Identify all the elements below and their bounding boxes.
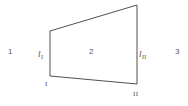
edge-subscript-two: II xyxy=(142,54,146,60)
edge-label-l-one: lI xyxy=(38,50,43,59)
region-label-1: 1 xyxy=(8,48,12,56)
vertex-label-one: I xyxy=(45,81,48,88)
vertex-label-two: II xyxy=(133,91,138,98)
quadrilateral-outline xyxy=(50,5,137,84)
quadrilateral-shape xyxy=(0,0,188,106)
region-label-2: 2 xyxy=(89,48,93,56)
geometry-diagram: 1 2 3 lI lII I II xyxy=(0,0,188,106)
edge-label-l-two: lII xyxy=(139,50,146,59)
edge-subscript-one: I xyxy=(41,54,43,60)
region-label-3: 3 xyxy=(175,48,179,56)
